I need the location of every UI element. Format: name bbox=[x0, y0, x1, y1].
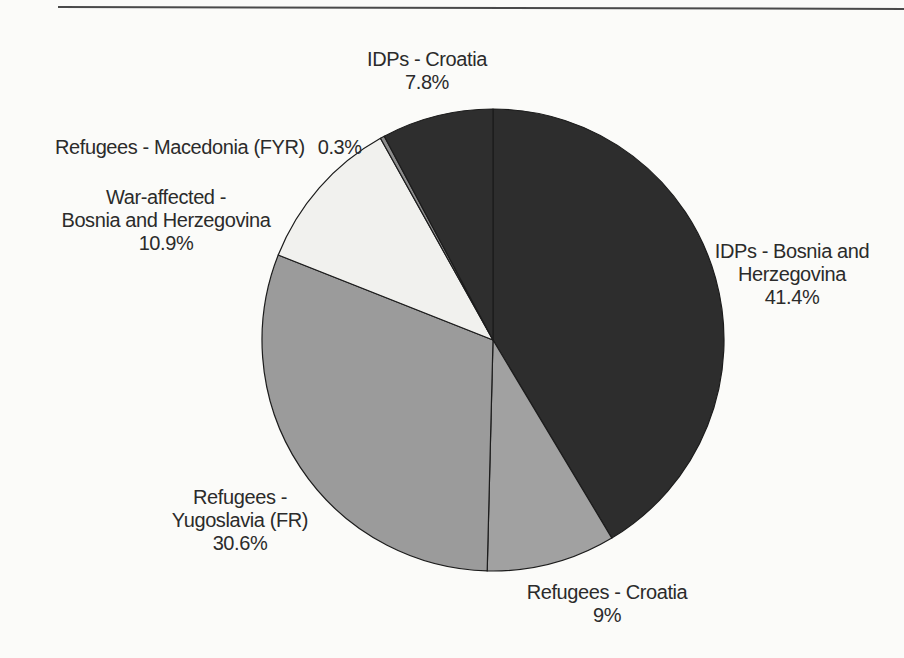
slice-value-text: 0.3% bbox=[318, 136, 362, 159]
label-idps-bosnia: IDPs - Bosnia and Herzegovina 41.4% bbox=[715, 240, 869, 309]
label-refugees-macedonia: Refugees - Macedonia (FYR) 0.3% bbox=[55, 136, 362, 159]
pie-chart bbox=[0, 0, 904, 658]
slice-name-text: Refugees - bbox=[172, 486, 308, 509]
slice-name-text: IDPs - Croatia bbox=[367, 48, 487, 71]
slice-value-text: 9% bbox=[527, 604, 688, 627]
slice-name-text: Herzegovina bbox=[715, 263, 869, 286]
label-idps-croatia: IDPs - Croatia 7.8% bbox=[367, 48, 487, 94]
label-refugees-croatia: Refugees - Croatia 9% bbox=[527, 581, 688, 627]
slice-name-text: Yugoslavia (FR) bbox=[172, 509, 308, 532]
slice-value-text: 7.8% bbox=[367, 71, 487, 94]
slice-name-text: War-affected - bbox=[61, 186, 270, 209]
label-refugees-yugoslavia: Refugees - Yugoslavia (FR) 30.6% bbox=[172, 486, 308, 555]
slice-name-text: Refugees - Macedonia (FYR) bbox=[55, 136, 305, 159]
slice-value-text: 30.6% bbox=[172, 532, 308, 555]
slice-value-text: 41.4% bbox=[715, 286, 869, 309]
slice-name-text: Bosnia and Herzegovina bbox=[61, 209, 270, 232]
label-war-affected-bosnia: War-affected - Bosnia and Herzegovina 10… bbox=[61, 186, 270, 255]
scanned-page: IDPs - Croatia 7.8% Refugees - Macedonia… bbox=[0, 0, 904, 658]
slice-name-text: Refugees - Croatia bbox=[527, 581, 688, 604]
slice-name-text: IDPs - Bosnia and bbox=[715, 240, 869, 263]
slice-value-text: 10.9% bbox=[61, 232, 270, 255]
